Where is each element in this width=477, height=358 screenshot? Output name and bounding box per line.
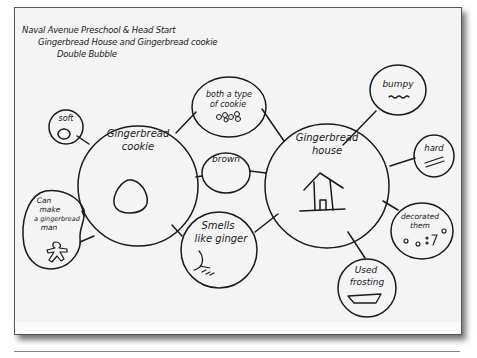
left-gbman-line1: Can bbox=[37, 196, 52, 205]
shared-smell-line2: like ginger bbox=[195, 233, 249, 244]
shared-cookie-type-line2: of cookie bbox=[210, 100, 246, 109]
frosting-tray-icon bbox=[348, 294, 381, 303]
double-line-icon bbox=[425, 157, 444, 167]
shared-cookie-type-line1: both a type bbox=[206, 90, 252, 99]
left-topic-line1: Gingerbread bbox=[107, 128, 170, 139]
shared-brown-label: brown bbox=[212, 154, 240, 164]
cookies-icon bbox=[217, 112, 241, 123]
ginger-root-icon bbox=[194, 251, 214, 275]
right-decorated-line1: decorated bbox=[401, 212, 439, 221]
wavy-line-icon bbox=[389, 96, 409, 98]
right-hard-label: hard bbox=[424, 143, 444, 153]
right-bumpy-label: bumpy bbox=[382, 79, 414, 89]
right-frosting-line2: frosting bbox=[350, 277, 385, 287]
right-topic-line2: house bbox=[312, 145, 342, 156]
right-bubble-hard bbox=[414, 135, 454, 177]
soft-blob-icon bbox=[58, 129, 70, 139]
shared-smell-line1: Smells bbox=[201, 220, 234, 231]
right-bubble-bumpy bbox=[370, 65, 426, 115]
double-bubble-map: Gingerbread cookie Gingerbread house bot… bbox=[0, 0, 477, 358]
left-topic-line2: cookie bbox=[122, 141, 154, 152]
round-cookie-icon bbox=[114, 180, 147, 213]
left-gbman-line4: man bbox=[41, 223, 58, 232]
left-soft-label: soft bbox=[58, 114, 74, 123]
right-topic-line1: Gingerbread bbox=[296, 132, 359, 143]
left-gbman-line3: a gingerbread bbox=[34, 215, 81, 223]
house-icon bbox=[300, 173, 345, 211]
left-gbman-line2: make bbox=[40, 205, 61, 214]
right-frosting-line1: Used bbox=[355, 265, 378, 275]
gingerbread-man-icon bbox=[47, 242, 67, 262]
right-decorated-line2: them bbox=[410, 221, 430, 230]
decorations-icon bbox=[404, 229, 446, 246]
